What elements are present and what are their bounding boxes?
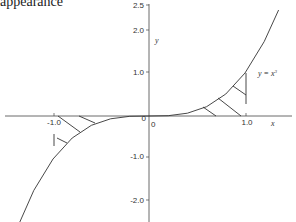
cubic-graph: 2.5 2.0 1.0 0 0 -1.0 -2.0 -1.0 1.0 y x y… bbox=[0, 0, 296, 222]
y-tick-neg-1-0: -1.0 bbox=[130, 152, 144, 161]
y-axis-label: y bbox=[154, 36, 159, 45]
x-tick-neg-1-0: -1.0 bbox=[47, 118, 61, 127]
curve-label: y = x3 bbox=[257, 69, 278, 78]
y-tick-2-0: 2.0 bbox=[133, 26, 145, 35]
x-tick-0: 0 bbox=[151, 120, 156, 129]
y-tick-neg-2-0: -2.0 bbox=[130, 196, 144, 205]
x-tick-1-0: 1.0 bbox=[241, 118, 253, 127]
x-axis-label: x bbox=[270, 119, 275, 128]
y-tick-2-5: 2.5 bbox=[133, 1, 145, 10]
y-tick-0: 0 bbox=[142, 114, 147, 123]
y-tick-1-0: 1.0 bbox=[133, 68, 145, 77]
